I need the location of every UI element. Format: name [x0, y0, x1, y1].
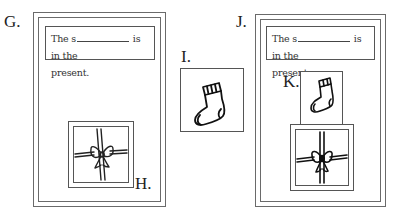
sock-icon — [301, 72, 342, 125]
panel-j-gift-inner — [295, 129, 349, 186]
panel-j-sentence-box: The s is in the present. — [266, 26, 375, 60]
gift-icon — [296, 130, 348, 185]
panel-j-label: J. — [236, 13, 247, 30]
panel-g-sentence-line2: present. — [51, 64, 150, 81]
panel-g-sentence-line1: The s is in the — [51, 30, 150, 64]
gift-icon — [74, 127, 128, 182]
panel-g-sentence-box: The s is in the present. — [45, 26, 155, 60]
panel-h-label: H. — [135, 175, 152, 192]
fill-in-blank — [298, 33, 350, 42]
panel-g-label: G. — [4, 13, 21, 30]
panel-k-label: K. — [283, 73, 300, 90]
panel-k-sock-box — [300, 71, 343, 126]
fill-in-blank — [77, 33, 129, 42]
panel-h-gift-inner — [73, 126, 129, 183]
panel-i-label: I. — [181, 48, 191, 65]
panel-i-sock-box — [180, 68, 244, 132]
sock-icon — [181, 69, 243, 131]
panel-j-sentence-line1: The s is in the — [272, 30, 370, 64]
